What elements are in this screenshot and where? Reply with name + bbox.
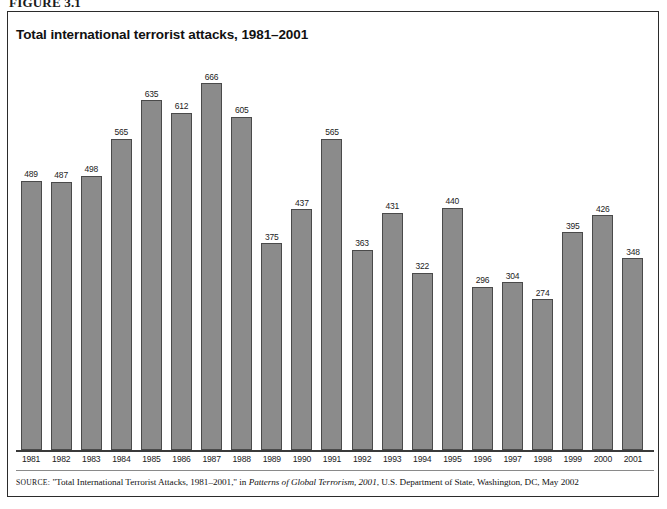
- bar-series: 4894874985656356126666053754375653634313…: [16, 60, 654, 450]
- bar-rect: [321, 139, 342, 450]
- source-note: SOURCE: "Total International Terrorist A…: [16, 477, 656, 487]
- bar-value-label: 612: [175, 101, 189, 111]
- bar-value-label: 605: [235, 105, 249, 115]
- bar-item: 426: [588, 60, 618, 450]
- x-axis-label: 1986: [166, 454, 196, 464]
- bar-value-label: 437: [295, 198, 309, 208]
- bar-rect: [81, 176, 102, 450]
- bar-value-label: 489: [24, 169, 38, 179]
- bar-item: 296: [467, 60, 497, 450]
- bar-value-label: 565: [325, 127, 339, 137]
- bar-value-label: 431: [385, 201, 399, 211]
- x-axis-label: 1985: [136, 454, 166, 464]
- bar-value-label: 487: [54, 170, 68, 180]
- bar-item: 348: [618, 60, 648, 450]
- bar-item: 605: [227, 60, 257, 450]
- x-axis-label: 1991: [317, 454, 347, 464]
- x-axis-label: 1989: [257, 454, 287, 464]
- source-prefix: SOURCE:: [16, 478, 50, 487]
- bar-rect: [442, 208, 463, 450]
- bar-rect: [291, 209, 312, 450]
- bar-item: 274: [528, 60, 558, 450]
- figure-number-label: FIGURE 3.1: [9, 0, 81, 11]
- x-axis-label: 1994: [407, 454, 437, 464]
- bar-value-label: 304: [506, 271, 520, 281]
- x-axis-label: 1984: [106, 454, 136, 464]
- bar-item: 304: [498, 60, 528, 450]
- bar-rect: [231, 117, 252, 450]
- bar-rect: [111, 139, 132, 450]
- x-axis-label: 1987: [197, 454, 227, 464]
- bar-rect: [382, 213, 403, 451]
- x-axis-label: 1992: [347, 454, 377, 464]
- bar-value-label: 296: [476, 275, 490, 285]
- bar-rect: [622, 258, 643, 450]
- bar-rect: [171, 113, 192, 450]
- bar-value-label: 440: [446, 196, 460, 206]
- bar-value-label: 322: [415, 261, 429, 271]
- x-axis-label: 1996: [467, 454, 497, 464]
- bar-item: 363: [347, 60, 377, 450]
- bar-rect: [592, 215, 613, 450]
- x-axis-label: 1997: [498, 454, 528, 464]
- bar-item: 487: [46, 60, 76, 450]
- bar-item: 437: [287, 60, 317, 450]
- x-axis-label: 1998: [528, 454, 558, 464]
- x-axis-tick-labels: 1981198219831984198519861987198819891990…: [16, 454, 654, 464]
- bar-item: 666: [197, 60, 227, 450]
- bar-rect: [261, 243, 282, 450]
- bar-value-label: 375: [265, 232, 279, 242]
- x-axis-label: 1990: [287, 454, 317, 464]
- bar-value-label: 395: [566, 221, 580, 231]
- bar-item: 635: [136, 60, 166, 450]
- x-axis-label: 1988: [227, 454, 257, 464]
- source-title-text: "Total International Terrorist Attacks, …: [52, 477, 237, 487]
- bar-item: 431: [377, 60, 407, 450]
- chart-title: Total international terrorist attacks, 1…: [16, 27, 308, 42]
- bar-rect: [21, 181, 42, 450]
- bar-rect: [352, 250, 373, 450]
- bar-item: 489: [16, 60, 46, 450]
- bar-rect: [412, 273, 433, 450]
- x-axis-label: 1995: [437, 454, 467, 464]
- x-axis-label: 1983: [76, 454, 106, 464]
- bar-value-label: 348: [626, 247, 640, 257]
- x-axis-label: 1982: [46, 454, 76, 464]
- x-axis-label: 1981: [16, 454, 46, 464]
- bar-rect: [562, 232, 583, 450]
- source-publication: Patterns of Global Terrorism, 2001: [249, 477, 377, 487]
- bar-rect: [472, 287, 493, 450]
- source-publisher: , U.S. Department of State, Washington, …: [377, 477, 579, 487]
- plot-area: 4894874985656356126666053754375653634313…: [16, 60, 654, 452]
- bar-value-label: 498: [84, 164, 98, 174]
- x-axis-line: [16, 450, 654, 452]
- bar-item: 612: [166, 60, 196, 450]
- bar-item: 565: [317, 60, 347, 450]
- bar-value-label: 363: [355, 238, 369, 248]
- bar-value-label: 635: [145, 89, 159, 99]
- bar-value-label: 426: [596, 204, 610, 214]
- x-axis-label: 2000: [588, 454, 618, 464]
- source-divider: [16, 470, 654, 471]
- bar-rect: [51, 182, 72, 450]
- bar-value-label: 274: [536, 288, 550, 298]
- bar-rect: [141, 100, 162, 450]
- figure-page: FIGURE 3.1 Total international terrorist…: [0, 0, 667, 509]
- bar-value-label: 666: [205, 72, 219, 82]
- bar-value-label: 565: [115, 127, 129, 137]
- bar-item: 395: [558, 60, 588, 450]
- bar-rect: [502, 282, 523, 450]
- bar-item: 565: [106, 60, 136, 450]
- bar-item: 498: [76, 60, 106, 450]
- bar-item: 322: [407, 60, 437, 450]
- x-axis-label: 1993: [377, 454, 407, 464]
- bar-item: 440: [437, 60, 467, 450]
- bar-item: 375: [257, 60, 287, 450]
- bar-rect: [201, 83, 222, 450]
- bar-rect: [532, 299, 553, 450]
- x-axis-label: 1999: [558, 454, 588, 464]
- x-axis-label: 2001: [618, 454, 648, 464]
